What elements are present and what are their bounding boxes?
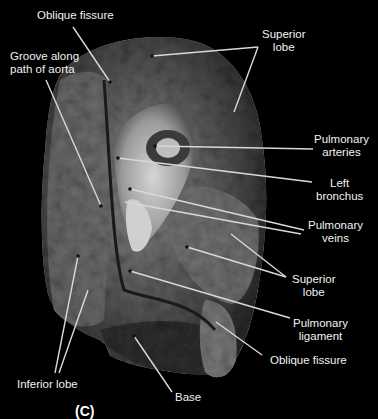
label-text: Inferior lobe (17, 378, 78, 390)
figure-panel-letter: (C) (75, 404, 94, 418)
label-text: Groove along (10, 50, 79, 63)
label-text: Pulmonary (308, 219, 363, 232)
label-left-bronchus: Left bronchus (316, 177, 363, 203)
label-pulmonary-arteries: Pulmonary arteries (314, 133, 369, 159)
label-text: Left (316, 177, 363, 190)
label-oblique-fissure-top: Oblique fissure (37, 9, 114, 22)
label-text: Pulmonary (314, 133, 369, 146)
label-text: ligament (293, 330, 348, 343)
label-inferior-lobe: Inferior lobe (17, 378, 78, 391)
label-text: veins (308, 232, 363, 245)
label-text: Oblique fissure (37, 9, 114, 21)
label-text: Superior (262, 28, 305, 41)
label-text: Base (175, 391, 201, 403)
label-base: Base (175, 391, 201, 404)
label-text: Superior (292, 273, 335, 286)
label-text: path of aorta (10, 63, 79, 76)
label-text: bronchus (316, 190, 363, 203)
label-pulmonary-ligament: Pulmonary ligament (293, 317, 348, 343)
label-oblique-fissure-bottom: Oblique fissure (270, 354, 347, 367)
label-text: arteries (314, 146, 369, 159)
label-text: lobe (292, 286, 335, 299)
label-text: Oblique fissure (270, 354, 347, 366)
label-pulmonary-veins: Pulmonary veins (308, 219, 363, 245)
label-groove-aorta: Groove along path of aorta (10, 50, 79, 76)
label-superior-lobe-top: Superior lobe (262, 28, 305, 54)
label-superior-lobe-mid: Superior lobe (292, 273, 335, 299)
label-text: Pulmonary (293, 317, 348, 330)
label-text: lobe (262, 41, 305, 54)
